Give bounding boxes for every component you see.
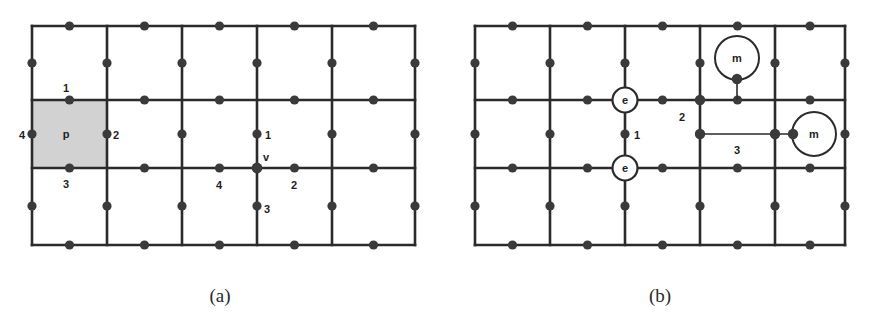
- string-node-dot-2: [695, 129, 705, 139]
- string-label-2: 2: [679, 111, 685, 123]
- excitation-m-top-label: m: [732, 52, 742, 64]
- plaquette-edge-label-2: 2: [113, 129, 119, 141]
- excitation-m-right: m: [788, 112, 836, 156]
- shaded-plaquette-p: [32, 100, 107, 168]
- panel-a: p 1 2 3 4 v 1 2 3 4 (a): [19, 21, 420, 307]
- vertex-edge-label-1: 1: [265, 129, 271, 141]
- string-node-dot-1: [695, 95, 705, 105]
- panel-b-caption: (b): [649, 285, 671, 307]
- string-label-1: 1: [634, 129, 640, 141]
- figure-container: p 1 2 3 4 v 1 2 3 4 (a): [0, 0, 878, 324]
- lattice-figure-svg: p 1 2 3 4 v 1 2 3 4 (a): [0, 0, 878, 324]
- excitation-e-bottom-label: e: [622, 162, 628, 174]
- plaquette-edge-label-1: 1: [63, 82, 69, 94]
- excitation-e-top: e: [613, 88, 638, 113]
- excitation-m-top: m: [715, 36, 759, 100]
- string-label-3: 3: [734, 144, 740, 156]
- vertex-v-dot: [252, 163, 263, 174]
- excitation-m-right-label: m: [809, 128, 819, 140]
- plaquette-edge-label-4: 4: [19, 129, 26, 141]
- panel-b: m m e e 1 2 3 (b): [470, 21, 849, 307]
- vertex-edge-label-2: 2: [291, 179, 297, 191]
- panel-a-caption: (a): [209, 285, 230, 307]
- excitation-e-bottom: e: [613, 156, 638, 181]
- excitation-e-top-label: e: [622, 94, 628, 106]
- vertex-label-v: v: [263, 151, 270, 163]
- vertex-edge-label-3: 3: [264, 203, 270, 215]
- vertex-edge-label-4: 4: [216, 179, 223, 191]
- plaquette-edge-label-3: 3: [63, 178, 69, 190]
- plaquette-label-p: p: [63, 128, 70, 140]
- string-node-dot-3: [770, 129, 780, 139]
- magnetic-string-path: [700, 100, 793, 134]
